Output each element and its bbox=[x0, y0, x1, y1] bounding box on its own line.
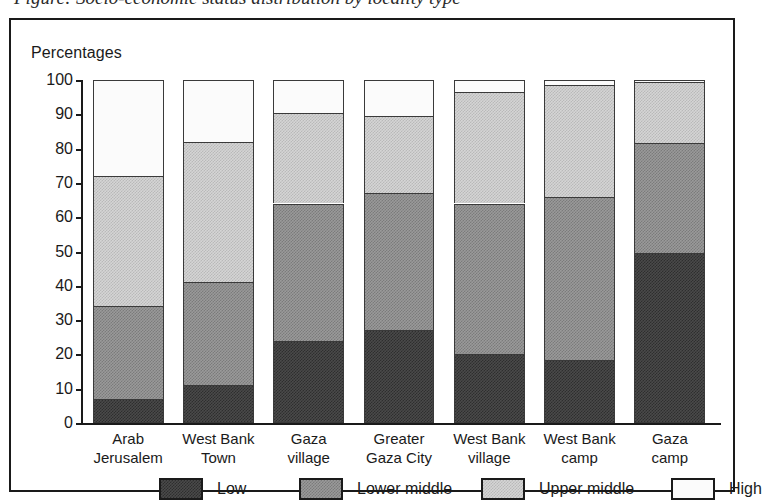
y-tick-mark bbox=[76, 114, 83, 116]
y-tick-label: 80 bbox=[55, 141, 73, 157]
bar-segment-high bbox=[364, 80, 435, 116]
x-tick-label-2: West Bank Town bbox=[167, 429, 269, 467]
x-tick-label-6: West Bank camp bbox=[528, 429, 630, 467]
bar-segment-low bbox=[183, 385, 254, 423]
bar-segment-low bbox=[544, 360, 615, 423]
plot-area bbox=[83, 80, 715, 423]
y-tick-mark bbox=[76, 183, 83, 185]
bar-4 bbox=[364, 80, 435, 423]
legend-swatch-high bbox=[671, 478, 715, 500]
bar-segment-upper-middle bbox=[183, 142, 254, 283]
y-tick-label: 30 bbox=[55, 312, 73, 328]
legend-item-high[interactable]: High bbox=[671, 475, 762, 502]
figure-caption-cropped: Figure: Socio-economic status distributi… bbox=[0, 0, 744, 16]
bar-7 bbox=[634, 80, 705, 423]
legend-label: Upper middle bbox=[539, 480, 634, 498]
legend-item-upper-middle[interactable]: Upper middle bbox=[481, 475, 634, 502]
x-axis-line bbox=[76, 423, 721, 425]
y-axis bbox=[76, 80, 83, 423]
bar-segment-upper-middle bbox=[273, 113, 344, 204]
y-tick-mark bbox=[76, 149, 83, 151]
legend-swatch-low bbox=[159, 478, 203, 500]
legend: LowLower middleUpper middleHigh bbox=[31, 475, 721, 502]
legend-swatch-upper-middle bbox=[481, 478, 525, 500]
y-tick-mark bbox=[76, 286, 83, 288]
y-axis-tick-labels: 0102030405060708090100 bbox=[25, 70, 73, 435]
bar-segment-low bbox=[454, 354, 525, 423]
bar-segment-lower-middle bbox=[634, 143, 705, 253]
x-tick-label-7: Gaza camp bbox=[619, 429, 721, 467]
figure-frame: Percentages 0102030405060708090100 Arab … bbox=[9, 18, 735, 492]
bar-segment-high bbox=[93, 80, 164, 176]
bar-segment-lower-middle bbox=[183, 282, 254, 385]
bar-3 bbox=[273, 80, 344, 423]
bar-segment-low bbox=[634, 253, 705, 423]
bar-6 bbox=[544, 80, 615, 423]
y-tick-mark bbox=[76, 354, 83, 356]
y-tick-label: 40 bbox=[55, 278, 73, 294]
bar-segment-low bbox=[364, 330, 435, 423]
y-tick-mark bbox=[76, 80, 83, 82]
x-tick-label-3: Gaza village bbox=[258, 429, 360, 467]
bar-segment-upper-middle bbox=[454, 92, 525, 203]
bar-segment-lower-middle bbox=[93, 306, 164, 399]
y-axis-title: Percentages bbox=[31, 44, 122, 62]
bar-segment-lower-middle bbox=[364, 193, 435, 330]
bar-segment-low bbox=[93, 399, 164, 423]
y-tick-label: 50 bbox=[55, 244, 73, 260]
legend-item-lower-middle[interactable]: Lower middle bbox=[299, 475, 452, 502]
y-tick-label: 60 bbox=[55, 209, 73, 225]
bar-2 bbox=[183, 80, 254, 423]
x-tick-label-5: West Bank village bbox=[438, 429, 540, 467]
bar-segment-high bbox=[273, 80, 344, 113]
x-tick-label-1: Arab Jerusalem bbox=[77, 429, 179, 467]
legend-item-low[interactable]: Low bbox=[159, 475, 246, 502]
y-tick-label: 10 bbox=[55, 381, 73, 397]
bar-segment-upper-middle bbox=[93, 176, 164, 306]
bar-1 bbox=[93, 80, 164, 423]
y-tick-mark bbox=[76, 252, 83, 254]
bar-segment-high bbox=[544, 80, 615, 85]
legend-label: Lower middle bbox=[357, 480, 452, 498]
x-axis-tick-labels: Arab JerusalemWest Bank TownGaza village… bbox=[83, 429, 715, 471]
y-tick-label: 0 bbox=[64, 415, 73, 431]
legend-label: Low bbox=[217, 480, 246, 498]
y-tick-mark bbox=[76, 217, 83, 219]
y-tick-label: 100 bbox=[46, 72, 73, 88]
bar-segment-lower-middle bbox=[454, 204, 525, 355]
y-tick-label: 70 bbox=[55, 175, 73, 191]
caption-text: Figure: Socio-economic status distributi… bbox=[14, 0, 461, 9]
bar-segment-high bbox=[183, 80, 254, 142]
bar-segment-high bbox=[634, 80, 705, 82]
legend-swatch-lower-middle bbox=[299, 478, 343, 500]
bar-5 bbox=[454, 80, 525, 423]
y-tick-mark bbox=[76, 389, 83, 391]
bar-segment-upper-middle bbox=[544, 85, 615, 196]
bar-segment-low bbox=[273, 341, 344, 423]
y-tick-label: 20 bbox=[55, 346, 73, 362]
legend-label: High bbox=[729, 480, 762, 498]
bar-segment-lower-middle bbox=[544, 197, 615, 360]
y-tick-label: 90 bbox=[55, 106, 73, 122]
bar-segment-lower-middle bbox=[273, 204, 344, 341]
bar-segment-upper-middle bbox=[364, 116, 435, 193]
bar-segment-high bbox=[454, 80, 525, 92]
x-tick-label-4: Greater Gaza City bbox=[348, 429, 450, 467]
y-tick-mark bbox=[76, 320, 83, 322]
bar-segment-upper-middle bbox=[634, 82, 705, 144]
